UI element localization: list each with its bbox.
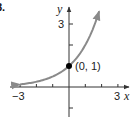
y-tick-label-3: 3	[58, 19, 64, 30]
x-axis-label: x	[124, 90, 129, 102]
y-axis-label: y	[57, 3, 62, 15]
y-intercept-point	[66, 63, 72, 69]
point-label: (0, 1)	[75, 61, 101, 72]
x-tick-label-neg3: −3	[12, 91, 25, 102]
x-tick-label-3: 3	[114, 91, 120, 102]
